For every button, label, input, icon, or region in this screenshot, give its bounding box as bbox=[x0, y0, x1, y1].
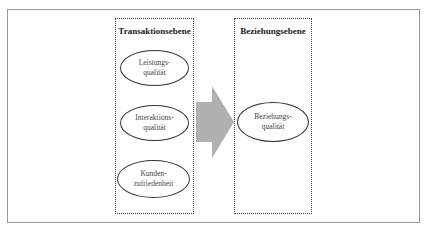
node-label-line2: qualität bbox=[143, 68, 166, 77]
interaction-quality-node: Interaktions-qualität bbox=[120, 105, 189, 141]
transaction-level-title: Transaktionsebene bbox=[116, 26, 193, 36]
performance-quality-node: Leistungs-qualität bbox=[120, 50, 189, 86]
node-label-line2: qualität bbox=[262, 122, 285, 131]
customer-satisfaction-node: Kunden-zufriedenheit bbox=[117, 160, 190, 198]
relationship-quality-node: Beziehungs-qualität bbox=[237, 102, 309, 142]
node-label-line2: qualität bbox=[143, 123, 166, 132]
node-label-line1: Beziehungs- bbox=[254, 112, 292, 121]
relationship-level-title: Beziehungsebene bbox=[235, 26, 311, 36]
node-label-line1: Interaktions- bbox=[135, 113, 173, 122]
right-arrow-icon bbox=[196, 86, 236, 160]
node-label-line2: zufriedenheit bbox=[134, 179, 174, 188]
node-label-line1: Leistungs- bbox=[139, 58, 171, 67]
node-label-line1: Kunden- bbox=[140, 169, 166, 178]
